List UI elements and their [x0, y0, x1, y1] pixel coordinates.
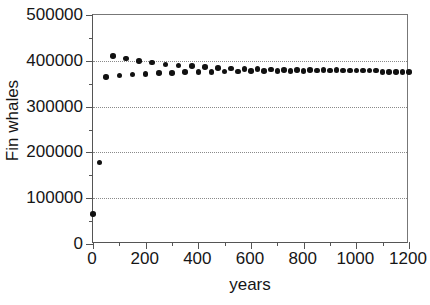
data-point: [380, 69, 386, 75]
y-tick-major-100000: [86, 198, 93, 199]
x-tick-major-800: [304, 242, 305, 249]
x-tick-label-400: 400: [183, 250, 211, 267]
y-tick-major-500000: [86, 15, 93, 16]
data-point: [235, 69, 241, 75]
x-tick-major-400: [198, 242, 199, 249]
data-point: [90, 211, 96, 217]
data-point: [222, 69, 228, 75]
data-point: [255, 66, 261, 72]
data-point: [281, 67, 287, 73]
y-tick-minor-250000: [89, 130, 93, 131]
x-tick-label-1200: 1200: [389, 250, 427, 267]
x-tick-label-600: 600: [236, 250, 264, 267]
y-axis-title: Fin whales: [4, 61, 21, 181]
y-tick-minor-150000: [89, 175, 93, 176]
x-axis-title: years: [92, 276, 408, 293]
data-point: [169, 70, 175, 76]
x-tick-label-200: 200: [130, 250, 158, 267]
data-point: [294, 67, 300, 73]
data-point: [334, 67, 340, 73]
data-point: [215, 65, 221, 71]
y-tick-minor-450000: [89, 38, 93, 39]
x-tick-minor-300: [172, 242, 173, 246]
data-point: [97, 160, 103, 166]
data-point: [110, 53, 116, 59]
data-point: [261, 68, 267, 74]
data-point: [103, 74, 109, 80]
data-point: [347, 68, 353, 74]
data-point: [189, 63, 195, 69]
y-tick-major-200000: [86, 152, 93, 153]
data-point: [307, 67, 313, 73]
x-tick-major-600: [251, 242, 252, 249]
data-point: [314, 68, 320, 74]
y-tick-major-0: [86, 244, 93, 245]
data-point: [400, 69, 406, 75]
data-point: [406, 69, 412, 75]
data-point: [301, 68, 307, 74]
x-tick-label-800: 800: [288, 250, 316, 267]
data-point: [209, 69, 215, 75]
y-tick-minor-50000: [89, 221, 93, 222]
data-point: [393, 69, 399, 75]
data-point: [182, 69, 188, 75]
data-point: [123, 56, 129, 62]
data-point: [143, 71, 149, 77]
x-tick-minor-100: [119, 242, 120, 246]
y-tick-major-300000: [86, 107, 93, 108]
x-tick-major-0: [93, 242, 94, 249]
data-point: [321, 67, 327, 73]
data-point: [268, 67, 274, 73]
data-point: [156, 70, 162, 76]
data-point: [373, 68, 379, 74]
x-tick-label-1000: 1000: [336, 250, 374, 267]
data-point: [248, 68, 254, 74]
gridline-y-100000: [93, 198, 407, 199]
data-point: [196, 69, 202, 75]
data-point: [340, 68, 346, 74]
data-point: [130, 72, 136, 78]
chart-figure: 0100000200000300000400000500000 Fin whal…: [0, 0, 430, 305]
x-tick-major-1200: [409, 242, 410, 249]
y-tick-minor-350000: [89, 84, 93, 85]
x-tick-label-0: 0: [87, 250, 96, 267]
gridline-y-200000: [93, 152, 407, 153]
x-tick-major-1000: [356, 242, 357, 249]
x-tick-minor-1100: [383, 242, 384, 246]
x-tick-major-200: [146, 242, 147, 249]
plot-area: [92, 14, 408, 243]
data-point: [354, 68, 360, 74]
data-point: [327, 68, 333, 74]
y-tick-label-100000: 100000: [26, 189, 83, 206]
y-tick-label-300000: 300000: [26, 98, 83, 115]
data-point: [228, 66, 234, 72]
data-point: [136, 58, 142, 64]
y-tick-major-400000: [86, 61, 93, 62]
data-point: [163, 62, 169, 68]
gridline-y-300000: [93, 107, 407, 108]
data-point: [176, 63, 182, 69]
x-tick-minor-700: [277, 242, 278, 246]
data-point: [117, 73, 123, 79]
data-point: [386, 69, 392, 75]
data-point: [360, 68, 366, 74]
data-point: [202, 64, 208, 70]
x-axis-tick-label-group: 020040060080010001200: [0, 250, 430, 272]
data-point: [288, 68, 294, 74]
data-point: [367, 68, 373, 74]
y-tick-label-200000: 200000: [26, 143, 83, 160]
x-tick-minor-900: [330, 242, 331, 246]
y-tick-label-400000: 400000: [26, 52, 83, 69]
data-point: [275, 68, 281, 74]
y-tick-label-500000: 500000: [26, 6, 83, 23]
x-tick-minor-500: [225, 242, 226, 246]
data-point: [149, 60, 155, 66]
data-point: [242, 66, 248, 72]
